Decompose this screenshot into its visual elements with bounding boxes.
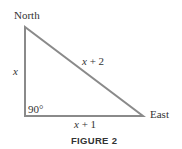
east-label: East (150, 109, 169, 120)
horizontal-side-suffix: + 1 (79, 118, 96, 130)
horizontal-side-label: x + 1 (74, 119, 96, 130)
north-label: North (14, 10, 40, 21)
figure-caption: FIGURE 2 (71, 136, 117, 146)
right-triangle-figure: North x x + 2 90° East x + 1 FIGURE 2 (0, 0, 182, 149)
vertical-side-label: x (13, 66, 18, 77)
vertical-side-var: x (13, 65, 18, 77)
right-angle-label: 90° (28, 104, 43, 115)
hypotenuse-suffix: + 2 (87, 55, 104, 67)
hypotenuse-label: x + 2 (82, 56, 104, 67)
